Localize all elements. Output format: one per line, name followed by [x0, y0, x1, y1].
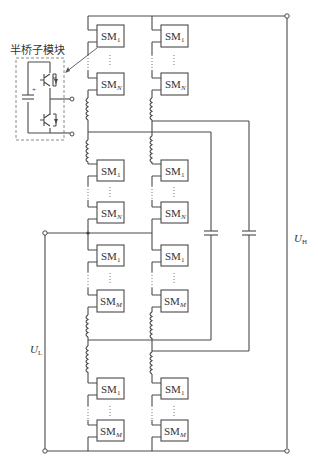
svg-text:+: + [32, 86, 36, 94]
igbt-lower-icon [40, 114, 50, 126]
uh-label: UH [294, 232, 307, 246]
pointer-arrow-icon [65, 67, 70, 73]
capacitor-left [204, 132, 218, 340]
terminal-low-bottom [43, 449, 47, 453]
inset-label: 半桥子模块 [10, 43, 65, 57]
terminal-high-top [285, 14, 289, 18]
terminal-high-bottom [285, 449, 289, 453]
terminal-low-top [43, 231, 47, 235]
half-bridge-inset: 半桥子模块 + [10, 43, 97, 140]
diode-upper-icon [54, 79, 58, 84]
circuit-diagram: SM1 SMN SM1 SMN SM1 SMN SM1 SMN SM1 SMM … [0, 0, 318, 469]
igbt-upper-icon [40, 74, 50, 86]
diode-lower-icon [54, 119, 58, 124]
capacitor-right [242, 121, 256, 351]
ul-label: UL [30, 343, 42, 357]
